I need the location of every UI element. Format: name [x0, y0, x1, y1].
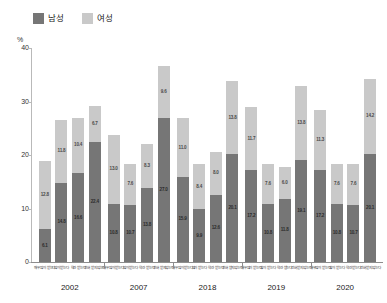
- bar-segment-female: 14.2: [364, 79, 376, 155]
- bar-value-label-male: 16.6: [72, 215, 84, 220]
- bar-segment-female: 13.8: [226, 81, 238, 155]
- bar-segment-male: 12.6: [210, 195, 222, 262]
- bar-value-label-male: 20.1: [226, 206, 238, 211]
- x-axis-year-label: 2018: [173, 283, 243, 292]
- bar-value-label-male: 19.1: [295, 209, 307, 214]
- y-axis-unit-label: %: [17, 36, 23, 43]
- group-separator: [311, 262, 312, 267]
- stacked-bar[interactable]: 11.814.8: [55, 48, 67, 262]
- bar-segment-male: 6.1: [39, 229, 51, 262]
- bar-segment-male: 20.1: [226, 154, 238, 262]
- bar-value-label-female: 7.6: [347, 182, 359, 187]
- bar-value-label-female: 9.6: [158, 90, 170, 95]
- bar-segment-female: 10.4: [72, 118, 84, 174]
- x-axis-line: [31, 262, 383, 263]
- x-axis-category-label: 전혀 받지않는다: [354, 266, 386, 270]
- bar-value-label-male: 15.9: [177, 217, 189, 222]
- bar-segment-male: 10.8: [262, 204, 274, 262]
- stacked-bar[interactable]: 8.313.8: [141, 48, 153, 262]
- bar-value-label-female: 7.6: [331, 182, 343, 187]
- legend-label-female: 여성: [97, 14, 113, 23]
- stacked-bar[interactable]: 6.011.8: [279, 48, 291, 262]
- bar-group: 12.86.111.814.810.416.66.722.4: [39, 48, 101, 262]
- y-axis-tick-mark: [28, 102, 31, 103]
- bar-segment-male: 11.8: [279, 199, 291, 262]
- bar-group: 11.317.27.610.87.610.714.220.1: [314, 48, 376, 262]
- stacked-bar[interactable]: 7.610.7: [347, 48, 359, 262]
- bar-segment-male: 19.1: [295, 160, 307, 262]
- plot-area: 12.86.111.814.810.416.66.722.413.010.87.…: [32, 48, 383, 262]
- bar-value-label-female: 13.8: [226, 115, 238, 120]
- bar-segment-female: 13.8: [295, 86, 307, 160]
- y-axis-tick-label: 10: [14, 205, 29, 212]
- stacked-bar[interactable]: 8.012.6: [210, 48, 222, 262]
- bar-value-label-male: 14.8: [55, 220, 67, 225]
- bar-segment-male: 20.1: [364, 154, 376, 262]
- bar-segment-male: 14.8: [55, 183, 67, 262]
- bar-segment-female: 11.7: [245, 107, 257, 170]
- stacked-bar[interactable]: 11.015.9: [177, 48, 189, 262]
- y-axis-tick-label: 30: [14, 98, 29, 105]
- bar-segment-female: 11.3: [314, 110, 326, 170]
- stacked-bar[interactable]: 13.010.8: [108, 48, 120, 262]
- bar-segment-male: 10.7: [124, 205, 136, 262]
- stacked-bar[interactable]: 13.820.1: [226, 48, 238, 262]
- bar-value-label-male: 10.8: [108, 231, 120, 236]
- bar-segment-female: 8.0: [210, 152, 222, 195]
- y-axis-tick-label: 20: [14, 151, 29, 158]
- y-axis-tick-mark: [28, 48, 31, 49]
- legend-item-female: 여성: [82, 13, 113, 24]
- bar-segment-female: 6.7: [89, 106, 101, 142]
- bar-segment-male: 17.2: [314, 170, 326, 262]
- bar-segment-female: 11.8: [55, 120, 67, 183]
- bar-value-label-female: 7.6: [262, 182, 274, 187]
- bar-value-label-male: 6.1: [39, 243, 51, 248]
- stacked-bar[interactable]: 9.627.0: [158, 48, 170, 262]
- bar-segment-female: 7.6: [124, 164, 136, 205]
- bar-value-label-male: 10.8: [331, 231, 343, 236]
- stacked-bar[interactable]: 10.416.6: [72, 48, 84, 262]
- stacked-bar[interactable]: 14.220.1: [364, 48, 376, 262]
- bar-value-label-female: 7.6: [124, 182, 136, 187]
- stacked-bar[interactable]: 11.717.2: [245, 48, 257, 262]
- square-swatch-icon: [33, 13, 44, 24]
- bar-segment-male: 10.8: [331, 204, 343, 262]
- x-axis-year-label: 2007: [104, 283, 174, 292]
- bar-value-label-male: 13.8: [141, 223, 153, 228]
- bar-segment-male: 16.6: [72, 173, 84, 262]
- stacked-bar[interactable]: 7.610.8: [262, 48, 274, 262]
- stacked-bar[interactable]: 11.317.2: [314, 48, 326, 262]
- bar-segment-male: 10.7: [347, 205, 359, 262]
- bar-value-label-female: 11.8: [55, 149, 67, 154]
- square-swatch-icon: [82, 13, 93, 24]
- bar-value-label-female: 11.7: [245, 136, 257, 141]
- bar-segment-male: 22.4: [89, 142, 101, 262]
- bar-segment-female: 7.6: [262, 164, 274, 205]
- bar-value-label-female: 10.4: [72, 143, 84, 148]
- bar-segment-female: 12.8: [39, 161, 51, 229]
- legend-item-male: 남성: [33, 13, 64, 24]
- bar-value-label-female: 11.3: [314, 137, 326, 142]
- stacked-bar[interactable]: 12.86.1: [39, 48, 51, 262]
- stacked-bar[interactable]: 7.610.7: [124, 48, 136, 262]
- bar-segment-male: 13.8: [141, 188, 153, 262]
- bar-value-label-female: 13.8: [295, 121, 307, 126]
- group-separator: [173, 262, 174, 267]
- bar-value-label-female: 8.0: [210, 171, 222, 176]
- bar-value-label-female: 6.0: [279, 181, 291, 186]
- bar-group: 13.010.87.610.78.313.89.627.0: [108, 48, 170, 262]
- bar-value-label-male: 27.0: [158, 187, 170, 192]
- stacked-bar[interactable]: 13.819.1: [295, 48, 307, 262]
- stacked-bar[interactable]: 6.722.4: [89, 48, 101, 262]
- stacked-bar[interactable]: 8.49.9: [193, 48, 205, 262]
- bar-value-label-female: 12.8: [39, 193, 51, 198]
- bar-value-label-male: 10.8: [262, 231, 274, 236]
- bar-value-label-male: 20.1: [364, 206, 376, 211]
- bar-segment-male: 17.2: [245, 170, 257, 262]
- bar-value-label-female: 13.0: [108, 167, 120, 172]
- stacked-bar[interactable]: 7.610.8: [331, 48, 343, 262]
- bar-group: 11.717.27.610.86.011.813.819.1: [245, 48, 307, 262]
- bar-segment-female: 11.0: [177, 118, 189, 177]
- group-separator: [242, 262, 243, 267]
- y-axis-tick-mark: [28, 262, 31, 263]
